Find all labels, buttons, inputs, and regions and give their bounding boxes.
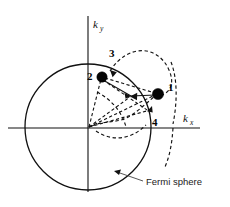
ky-axis-subscript: y [99, 24, 104, 33]
fermi-sphere-caption: Fermi sphere [146, 176, 202, 187]
process-4-arc-group: 4 [92, 96, 158, 138]
solid-vector-state2-to-mid [103, 80, 131, 96]
fermi-sphere-caption-group: Fermi sphere [114, 170, 202, 188]
fermi-sphere-leader-arrowhead [114, 170, 121, 176]
ky-axis-label: k [93, 18, 99, 30]
process-3-arc-outer-right [171, 62, 176, 124]
state-2-dot [97, 72, 107, 82]
state-1-dot [152, 88, 163, 99]
kx-axis-label-group: k x [183, 112, 194, 127]
state-1-label: 1 [168, 81, 174, 93]
kx-axis-label: k [183, 112, 189, 124]
process-4-label: 4 [152, 116, 158, 128]
dashed-origin-to-midnode [89, 97, 130, 127]
state-2-label: 2 [87, 70, 93, 82]
fermi-diagram-canvas: k y k x [0, 0, 230, 207]
process-4-lower-arc [96, 125, 146, 138]
ky-axis-label-group: k y [93, 18, 104, 33]
fermi-sphere-figure: k y k x [0, 0, 230, 207]
state-1-group: 1 [152, 81, 173, 100]
kx-axis-subscript: x [189, 118, 194, 127]
process-3-arc-tail-below-axis [165, 128, 173, 167]
state-2-group: 2 [87, 70, 107, 82]
process-3-label: 3 [109, 47, 115, 59]
